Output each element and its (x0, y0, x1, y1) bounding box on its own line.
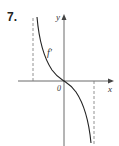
x-axis-arrow-icon (108, 79, 114, 84)
y-axis-arrow-icon (62, 14, 67, 20)
origin-label: 0 (57, 84, 61, 93)
function-label: f′ (47, 47, 53, 58)
derivative-graph: y x 0 f′ (0, 0, 119, 146)
x-axis-label: x (107, 84, 112, 94)
y-axis-label: y (55, 12, 60, 22)
